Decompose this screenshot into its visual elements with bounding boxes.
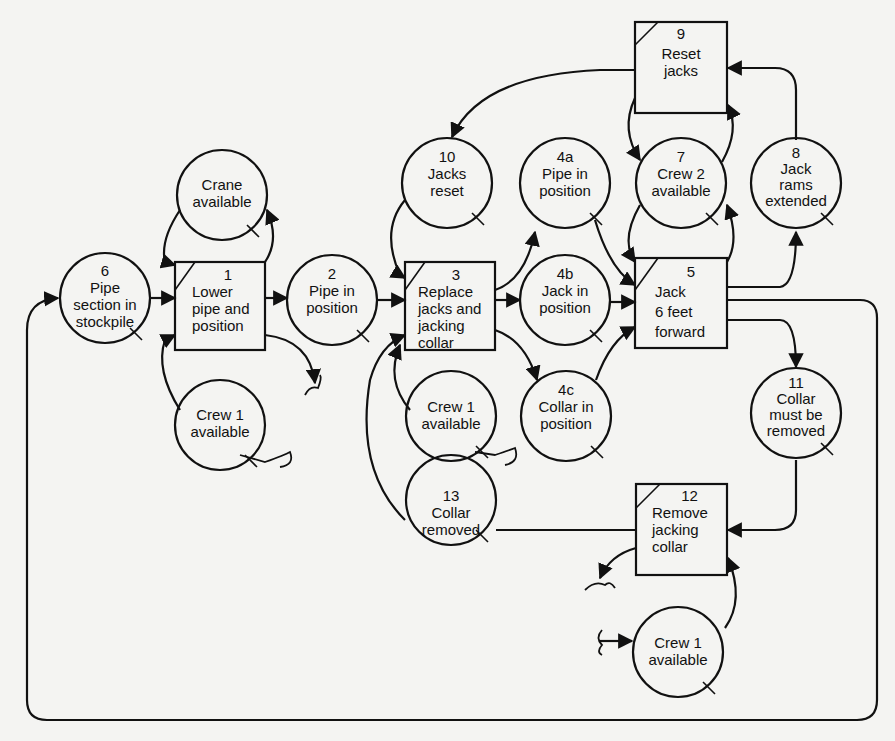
node-10-circle [402, 138, 492, 228]
edge-3-to-4a [495, 232, 535, 290]
edge-4c-to-5 [596, 327, 635, 380]
edge-crane-to-1 [164, 210, 180, 265]
node-6-circle [60, 253, 150, 343]
edge-5-to-11 [727, 320, 796, 367]
node-11-circle [751, 368, 841, 458]
node-crew1b-circle [406, 371, 496, 461]
edge-1-to-crane [265, 210, 273, 262]
edge-5-to-7 [727, 205, 734, 262]
edge-5-to-6 [27, 298, 877, 720]
node-8-circle [751, 138, 841, 228]
edge-12-break [600, 548, 636, 578]
edge-10-to-3 [391, 200, 405, 278]
edge-crew1a-to-1 [162, 335, 180, 410]
edge-3-to-4c [495, 330, 537, 380]
task-9-box [635, 22, 727, 113]
task-12-box [636, 484, 727, 575]
node-crew1a-circle [175, 380, 265, 470]
task-3-box [405, 262, 495, 350]
diagram-canvas [0, 0, 895, 741]
node-crew1c-circle [633, 607, 723, 697]
edge-8-to-9 [728, 68, 796, 140]
node-7-circle [636, 138, 726, 228]
edge-1-break [265, 335, 315, 383]
node-4b-circle [520, 255, 610, 345]
edge-11-to-12 [728, 460, 796, 530]
task-1-box [175, 262, 265, 350]
edge-5-to-8 [727, 232, 796, 287]
edge-7-to-5 [629, 205, 640, 262]
edge-13-to-3 [367, 335, 405, 520]
edge-9-to-10 [452, 70, 635, 137]
node-2-circle [287, 255, 377, 345]
node-4c-circle [521, 371, 611, 461]
node-crane-circle [177, 150, 267, 240]
node-13-circle [406, 455, 496, 545]
node-4a-circle [520, 138, 610, 228]
edge-crew1b-to-3 [394, 345, 410, 410]
